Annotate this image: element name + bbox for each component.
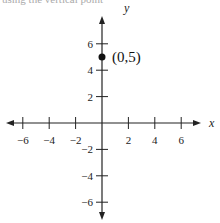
y-axis-up-arrow-icon xyxy=(99,16,105,24)
x-tick-label: 6 xyxy=(178,134,184,146)
y-tick-label: 6 xyxy=(88,38,94,50)
data-point xyxy=(99,54,106,61)
x-tick-label: 2 xyxy=(126,134,132,146)
x-axis-left-arrow-icon xyxy=(6,120,14,126)
y-tick-label: −2 xyxy=(81,143,93,155)
axes: xy xyxy=(6,1,215,220)
data-points: (0,5) xyxy=(99,49,141,66)
y-axis-down-arrow-icon xyxy=(99,212,105,220)
data-point-label: (0,5) xyxy=(112,49,141,66)
x-axis-right-arrow-icon xyxy=(193,120,201,126)
y-tick-label: −6 xyxy=(81,196,93,208)
x-tick-label: −4 xyxy=(43,134,55,146)
y-tick-label: −4 xyxy=(81,170,93,182)
x-tick-label: −2 xyxy=(70,134,82,146)
coordinate-plane: xy −6−4−2246−6−4−2246 (0,5) xyxy=(0,0,220,223)
x-axis-label: x xyxy=(208,116,215,130)
y-tick-label: 2 xyxy=(88,91,94,103)
y-tick-label: 4 xyxy=(88,64,94,76)
x-tick-label: −6 xyxy=(17,134,29,146)
x-tick-label: 4 xyxy=(152,134,158,146)
y-axis-label: y xyxy=(123,1,130,15)
